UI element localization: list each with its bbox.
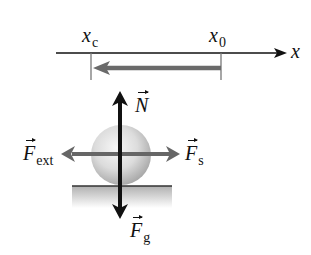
- label-gravity-force-base: F: [130, 220, 142, 240]
- label-normal-force-base: N: [135, 95, 148, 115]
- label-xc: xc: [82, 25, 98, 45]
- free-body-diagram: xc x0 x N Fg Fs Fext: [0, 0, 311, 255]
- label-spring-force-base: F: [185, 143, 197, 163]
- label-x-axis: x: [291, 41, 300, 61]
- label-external-force-sub: ext: [36, 153, 53, 168]
- label-spring-force-sub: s: [198, 153, 203, 168]
- label-x0: x0: [209, 25, 226, 45]
- label-x0-sub: 0: [219, 35, 226, 50]
- label-normal-force: N: [135, 95, 148, 115]
- label-gravity-force-sub: g: [143, 230, 150, 245]
- label-xc-base: x: [82, 24, 91, 46]
- label-spring-force: Fs: [185, 143, 204, 163]
- label-external-force: Fext: [23, 143, 53, 163]
- displacement-arrow: [93, 61, 221, 75]
- label-external-force-base: F: [23, 143, 35, 163]
- diagram-canvas: [0, 0, 311, 255]
- label-xc-sub: c: [92, 35, 98, 50]
- label-x-axis-text: x: [291, 40, 300, 62]
- label-gravity-force: Fg: [130, 220, 150, 240]
- label-x0-base: x: [209, 24, 218, 46]
